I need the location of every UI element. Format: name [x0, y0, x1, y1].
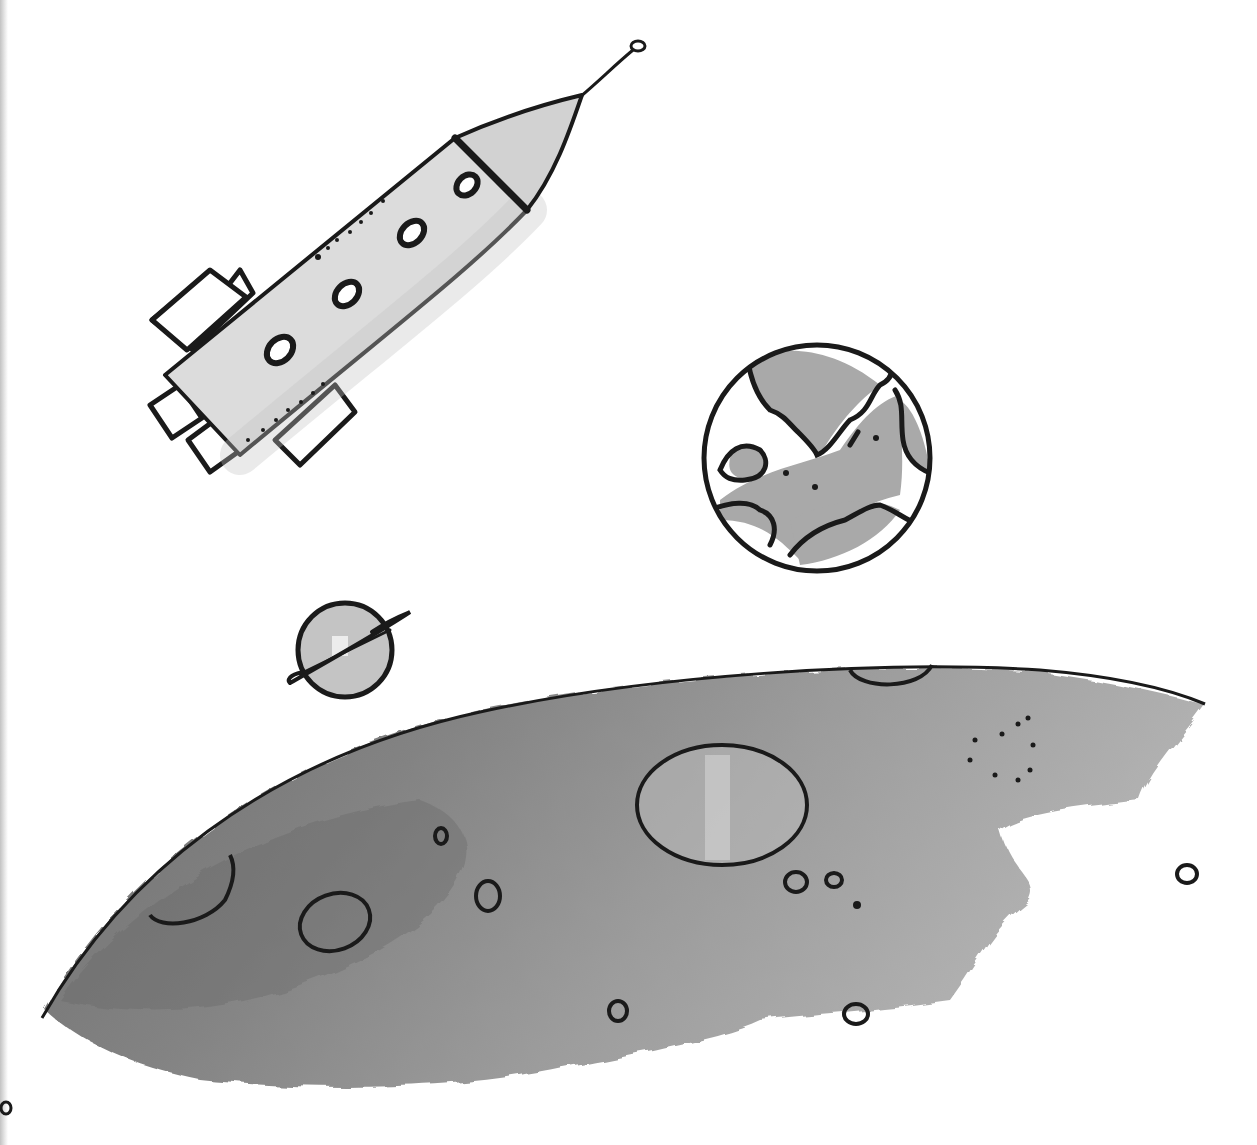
space-illustration — [0, 0, 1257, 1145]
rocket — [150, 41, 645, 472]
antenna-tip — [631, 41, 645, 51]
rocket-antenna — [580, 50, 633, 97]
earth-planet — [704, 345, 935, 571]
moon-surface — [42, 665, 1205, 1087]
crater — [1, 1102, 11, 1114]
crater — [1177, 865, 1197, 883]
ringed-planet — [289, 603, 410, 697]
